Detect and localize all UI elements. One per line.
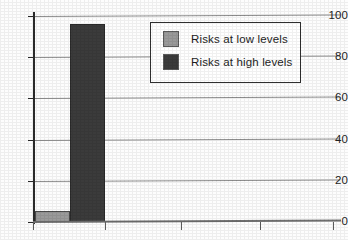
x-axis-line <box>33 219 341 223</box>
y-tick-mark-60 <box>28 98 34 99</box>
y-tick-mark-20 <box>28 181 34 182</box>
legend-swatch-high-icon <box>163 54 179 70</box>
y-tick-label-40: 40 <box>322 134 348 146</box>
y-tick-label-100: 100 <box>322 10 348 22</box>
x-tick-mark-2 <box>105 222 106 230</box>
x-tick-mark-4 <box>260 222 261 230</box>
y-tick-mark-40 <box>28 140 34 141</box>
gridline-100 <box>33 14 340 17</box>
y-tick-label-60: 60 <box>322 92 348 104</box>
y-tick-label-80: 80 <box>322 51 348 63</box>
bar-risks-at-high-levels <box>70 24 105 222</box>
legend-swatch-low-icon <box>163 31 179 47</box>
bar-chart: 100 80 60 40 20 0 Risks at low levels Ri… <box>0 0 348 240</box>
x-tick-mark-5 <box>333 222 334 230</box>
chart-legend: Risks at low levels Risks at high levels <box>150 22 301 83</box>
legend-label-high: Risks at high levels <box>191 56 292 68</box>
legend-item-risks-at-high-levels: Risks at high levels <box>163 54 292 70</box>
y-tick-mark-80 <box>28 57 34 58</box>
y-tick-label-20: 20 <box>322 175 348 187</box>
x-tick-mark-1 <box>33 222 34 230</box>
y-axis-line <box>33 12 35 224</box>
legend-label-low: Risks at low levels <box>191 33 288 45</box>
y-tick-label-0: 0 <box>322 216 348 228</box>
x-tick-mark-3 <box>181 222 182 230</box>
legend-item-risks-at-low-levels: Risks at low levels <box>163 31 288 47</box>
y-tick-mark-100 <box>28 16 34 17</box>
